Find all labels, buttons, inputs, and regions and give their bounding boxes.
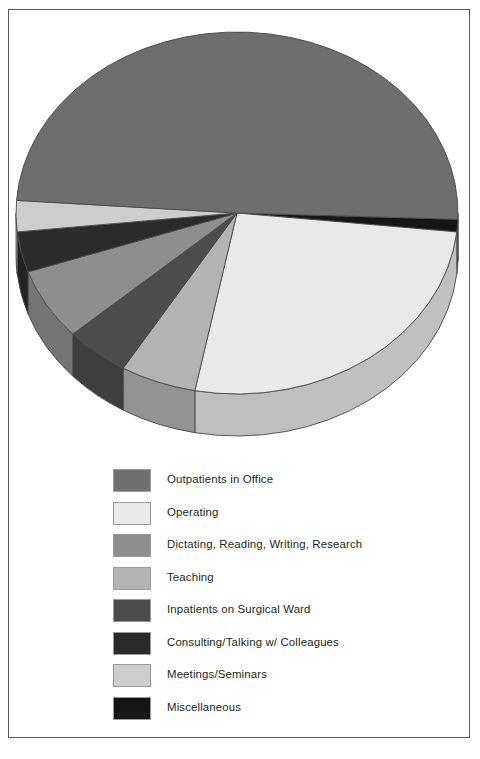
legend-item[interactable]: Inpatients on Surgical Ward: [113, 595, 443, 628]
legend-swatch-icon: [113, 534, 151, 557]
legend-swatch-icon: [113, 632, 151, 655]
legend-item-label: Inpatients on Surgical Ward: [167, 602, 311, 617]
legend-swatch-icon: [113, 567, 151, 590]
legend-swatch-icon: [113, 469, 151, 492]
pie-chart-svg: [9, 10, 471, 450]
legend-item[interactable]: Operating: [113, 498, 443, 531]
legend-item-label: Consulting/Talking w/ Colleagues: [167, 635, 339, 650]
figure-frame: Outpatients in OfficeOperatingDictating,…: [8, 9, 470, 738]
pie-chart-area: [9, 10, 471, 450]
legend-item[interactable]: Consulting/Talking w/ Colleagues: [113, 628, 443, 661]
pie-top-faces: [16, 32, 458, 394]
legend-item-label: Operating: [167, 505, 218, 520]
legend-swatch-icon: [113, 599, 151, 622]
legend-swatch-icon: [113, 502, 151, 525]
figure-root: Outpatients in OfficeOperatingDictating,…: [0, 0, 480, 759]
legend-item-label: Meetings/Seminars: [167, 667, 267, 682]
legend-swatch-icon: [113, 664, 151, 687]
legend-item[interactable]: Teaching: [113, 563, 443, 596]
legend-swatch-icon: [113, 697, 151, 720]
pie-slice: [17, 32, 458, 219]
chart-legend: Outpatients in OfficeOperatingDictating,…: [113, 465, 443, 725]
legend-item-label: Dictating, Reading, Writing, Research: [167, 537, 362, 552]
legend-item[interactable]: Outpatients in Office: [113, 465, 443, 498]
legend-item[interactable]: Miscellaneous: [113, 693, 443, 726]
legend-item-label: Outpatients in Office: [167, 472, 273, 487]
legend-item-label: Teaching: [167, 570, 214, 585]
pie-slice: [195, 213, 457, 394]
legend-item[interactable]: Meetings/Seminars: [113, 660, 443, 693]
legend-item-label: Miscellaneous: [167, 700, 241, 715]
legend-item[interactable]: Dictating, Reading, Writing, Research: [113, 530, 443, 563]
